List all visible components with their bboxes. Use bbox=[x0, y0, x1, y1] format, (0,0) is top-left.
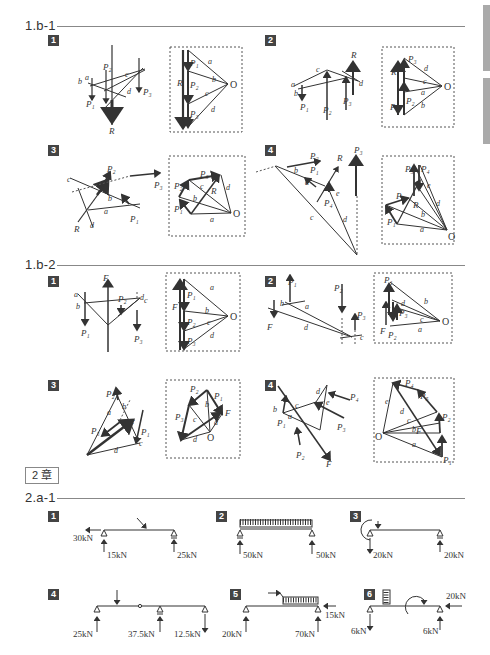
reaction-label: 6kN bbox=[423, 626, 439, 636]
reaction-label: 25kN bbox=[73, 629, 94, 639]
reaction-label: 70kN bbox=[295, 629, 316, 639]
reaction-label: 50kN bbox=[316, 550, 337, 560]
reaction-label: 20kN bbox=[373, 550, 394, 560]
reaction-label: 20kN bbox=[222, 629, 243, 639]
reaction-label: 37.5kN bbox=[128, 629, 155, 639]
reaction-label: 12.5kN bbox=[174, 629, 201, 639]
reaction-label: 30kN bbox=[73, 533, 94, 543]
reaction-label: 15kN bbox=[107, 550, 128, 560]
reaction-label: 25kN bbox=[177, 550, 198, 560]
beam-reaction-diagrams: 30kN 15kN 25kN 50kN 50kN 20kN 20kN 25kN … bbox=[0, 0, 490, 655]
reaction-label: 20kN bbox=[444, 550, 465, 560]
reaction-label: 20kN bbox=[446, 591, 467, 601]
reaction-label: 6kN bbox=[351, 626, 367, 636]
reaction-label: 50kN bbox=[243, 550, 264, 560]
reaction-label: 15kN bbox=[325, 610, 346, 620]
